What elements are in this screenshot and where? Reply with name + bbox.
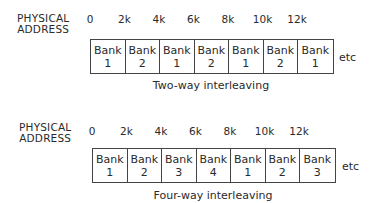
bank-number: 1 xyxy=(312,57,319,70)
bank-number: 2 xyxy=(139,57,146,70)
address-tick: 8k xyxy=(222,13,235,25)
address-tick: 8k xyxy=(224,125,237,137)
physical-address-label: PHYSICALADDRESS xyxy=(17,13,69,35)
bank-number: 3 xyxy=(314,166,321,179)
diagram-caption: Four-way interleaving xyxy=(154,189,273,202)
diagram-caption: Two-way interleaving xyxy=(153,79,269,92)
bank-word: Bank xyxy=(266,44,294,57)
bank-word: Bank xyxy=(232,44,260,57)
bank-cell: Bank1 xyxy=(298,40,333,73)
bank-cell: Bank2 xyxy=(128,149,163,182)
address-tick: 10k xyxy=(253,13,272,25)
address-tick: 4k xyxy=(155,125,168,137)
etc-label: etc xyxy=(339,51,356,64)
bank-cell: Bank4 xyxy=(197,149,232,182)
bank-word: Bank xyxy=(268,153,296,166)
bank-number: 2 xyxy=(277,57,284,70)
bank-cell: Bank1 xyxy=(91,40,126,73)
address-tick: 12k xyxy=(287,13,306,25)
address-tick: 6k xyxy=(189,125,202,137)
bank-cell: Bank2 xyxy=(126,40,161,73)
bank-word: Bank xyxy=(94,44,122,57)
address-tick: 4k xyxy=(153,13,166,25)
bank-word: Bank xyxy=(128,44,156,57)
bank-cell: Bank2 xyxy=(195,40,230,73)
bank-cell: Bank2 xyxy=(266,149,301,182)
label-line2: ADDRESS xyxy=(17,24,69,35)
etc-label: etc xyxy=(342,160,359,173)
address-tick: 6k xyxy=(187,13,200,25)
bank-cell: Bank1 xyxy=(231,149,266,182)
bank-word: Bank xyxy=(163,44,191,57)
bank-number: 2 xyxy=(208,57,215,70)
bank-word: Bank xyxy=(165,153,193,166)
bank-word: Bank xyxy=(199,153,227,166)
bank-cell: Bank1 xyxy=(160,40,195,73)
bank-word: Bank xyxy=(197,44,225,57)
bank-number: 2 xyxy=(279,166,286,179)
address-tick: 12k xyxy=(289,125,308,137)
bank-word: Bank xyxy=(130,153,158,166)
label-line2: ADDRESS xyxy=(19,133,71,144)
bank-cell: Bank3 xyxy=(162,149,197,182)
bank-number: 1 xyxy=(106,166,113,179)
bank-number: 2 xyxy=(141,166,148,179)
bank-cell: Bank1 xyxy=(229,40,264,73)
bank-cell: Bank2 xyxy=(264,40,299,73)
bank-number: 3 xyxy=(175,166,182,179)
bank-cell: Bank3 xyxy=(300,149,335,182)
address-tick: 0 xyxy=(89,125,96,137)
bank-row: Bank1Bank2Bank3Bank4Bank1Bank2Bank3 xyxy=(92,148,336,183)
bank-cell: Bank1 xyxy=(93,149,128,182)
bank-number: 1 xyxy=(173,57,180,70)
bank-word: Bank xyxy=(96,153,124,166)
bank-row: Bank1Bank2Bank1Bank2Bank1Bank2Bank1 xyxy=(90,39,334,74)
address-tick: 0 xyxy=(87,13,94,25)
address-tick: 2k xyxy=(120,125,133,137)
bank-word: Bank xyxy=(234,153,262,166)
address-tick: 2k xyxy=(118,13,131,25)
bank-number: 1 xyxy=(242,57,249,70)
bank-number: 4 xyxy=(210,166,217,179)
physical-address-label: PHYSICALADDRESS xyxy=(19,122,71,144)
bank-number: 1 xyxy=(104,57,111,70)
bank-number: 1 xyxy=(244,166,251,179)
bank-word: Bank xyxy=(303,153,331,166)
bank-word: Bank xyxy=(301,44,329,57)
address-tick: 10k xyxy=(255,125,274,137)
